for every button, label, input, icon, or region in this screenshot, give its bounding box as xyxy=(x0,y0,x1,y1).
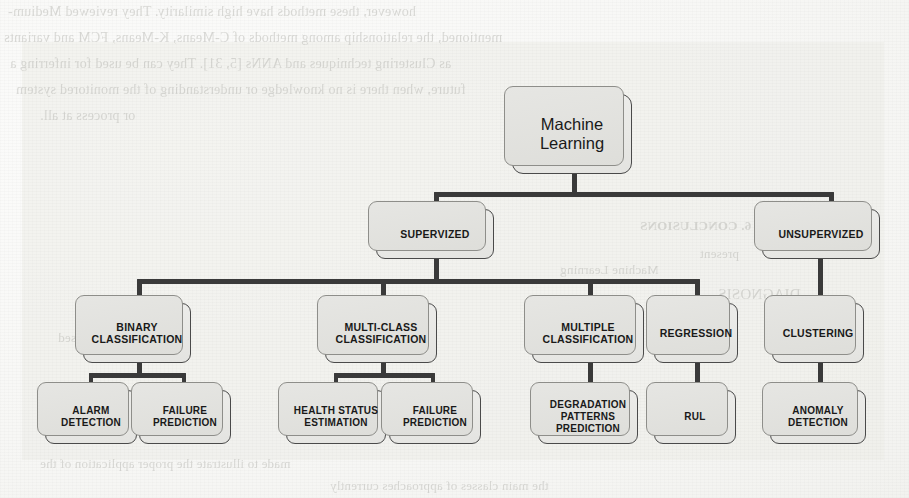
node-label: MULTIPLE CLASSIFICATION xyxy=(543,321,634,346)
node-label: MULTI-CLASS CLASSIFICATION xyxy=(336,321,427,346)
node-regression[interactable]: REGRESSION xyxy=(654,303,738,363)
node-label: FAILURE PREDICTION xyxy=(403,405,467,429)
node-label: HEALTH STATUS ESTIMATION xyxy=(294,405,378,429)
node-label: ANOMALY DETECTION xyxy=(788,405,848,429)
node-label: DEGRADATION PATTERNS PREDICTION xyxy=(550,399,626,434)
node-rul[interactable]: RUL xyxy=(654,390,736,444)
node-machine-learning[interactable]: Machine Learning xyxy=(512,94,632,174)
node-label: REGRESSION xyxy=(660,327,733,339)
node-label: Machine Learning xyxy=(540,115,604,154)
node-degradation-patterns-prediction[interactable]: DEGRADATION PATTERNS PREDICTION xyxy=(538,390,638,444)
node-binary-classification[interactable]: BINARY CLASSIFICATION xyxy=(83,303,191,363)
machine-learning-taxonomy-diagram: Machine Learning SUPERVIZED UNSUPERVIZED… xyxy=(0,0,909,498)
node-multiple-classification[interactable]: MULTIPLE CLASSIFICATION xyxy=(532,303,644,363)
node-anomaly-detection[interactable]: ANOMALY DETECTION xyxy=(770,390,866,444)
node-unsupervized[interactable]: UNSUPERVIZED xyxy=(762,209,880,259)
node-label: SUPERVIZED xyxy=(400,228,469,240)
scanned-page: however, these methods have high similar… xyxy=(0,0,909,498)
node-failure-prediction-2[interactable]: FAILURE PREDICTION xyxy=(389,390,481,444)
node-supervized[interactable]: SUPERVIZED xyxy=(376,209,494,259)
node-alarm-detection[interactable]: ALARM DETECTION xyxy=(45,390,137,444)
node-label: FAILURE PREDICTION xyxy=(153,405,217,429)
node-label: BINARY CLASSIFICATION xyxy=(92,321,183,346)
node-label: RUL xyxy=(684,411,705,423)
node-health-status-estimation[interactable]: HEALTH STATUS ESTIMATION xyxy=(286,390,386,444)
connector-multiclass-bus xyxy=(334,373,435,378)
node-label: CLUSTERING xyxy=(783,327,854,339)
connector-binary-bus xyxy=(89,373,186,378)
connector-level2-bus xyxy=(434,192,834,197)
node-label: ALARM DETECTION xyxy=(61,405,121,429)
node-multi-class-classification[interactable]: MULTI-CLASS CLASSIFICATION xyxy=(325,303,437,363)
node-label: UNSUPERVIZED xyxy=(778,228,863,240)
connector-level3-bus xyxy=(137,279,700,284)
node-failure-prediction-1[interactable]: FAILURE PREDICTION xyxy=(139,390,231,444)
node-clustering[interactable]: CLUSTERING xyxy=(772,303,864,363)
